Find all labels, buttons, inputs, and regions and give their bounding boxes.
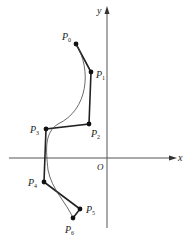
label-p5: P5 (85, 204, 95, 216)
label-p2: P2 (90, 128, 100, 140)
x-axis-label: x (177, 152, 183, 163)
y-axis: y (96, 5, 110, 228)
label-p0: P0 (61, 31, 71, 43)
control-point-p6 (71, 216, 76, 221)
bezier-curve (47, 44, 86, 218)
origin-label: O (97, 162, 104, 172)
control-point-p2 (87, 122, 92, 127)
label-p1: P1 (95, 69, 105, 81)
bezier-diagram: y x O P0 P1 P2 P3 P4 P5 P6 (0, 0, 188, 240)
label-p6: P6 (64, 224, 74, 236)
y-axis-arrow-icon (105, 6, 110, 14)
control-point-p3 (44, 127, 49, 132)
x-axis-arrow-icon (169, 156, 177, 161)
control-point-p5 (78, 207, 83, 212)
control-point-p4 (42, 180, 47, 185)
label-p3: P3 (29, 124, 39, 136)
control-point-p1 (89, 70, 94, 75)
label-p4: P4 (27, 177, 37, 189)
control-point-p0 (74, 42, 79, 47)
control-points (42, 42, 94, 221)
x-axis: x (9, 152, 183, 163)
y-axis-label: y (96, 5, 102, 16)
